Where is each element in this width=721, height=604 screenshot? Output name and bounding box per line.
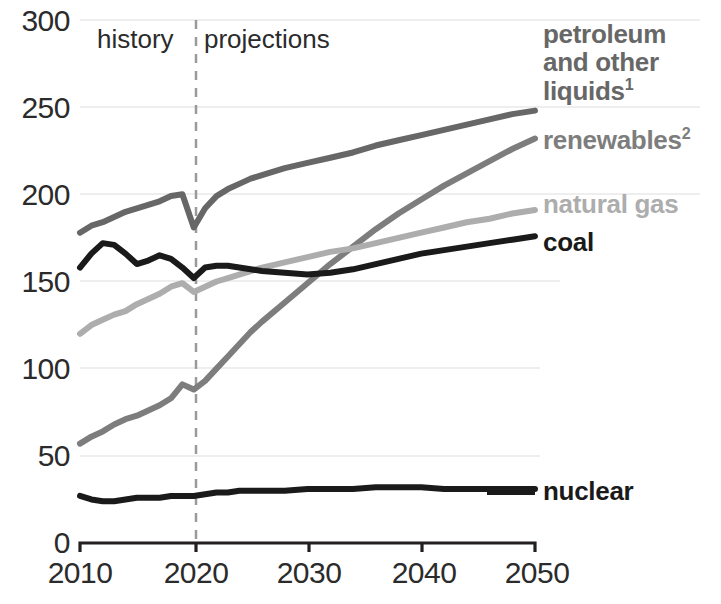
series-label-renewables-footnote: 2 (682, 124, 691, 142)
series-line-renewables (80, 139, 535, 444)
series-label-nuclear: nuclear (543, 477, 633, 505)
series-label-petroleum: petroleum and other liquids1 (543, 20, 666, 105)
x-axis (80, 543, 535, 552)
series-label-coal: coal (543, 228, 594, 256)
series-label-petroleum-footnote: 1 (625, 75, 634, 93)
energy-consumption-chart: 300 250 200 150 100 50 0 2010 2020 2030 … (0, 0, 721, 604)
series-label-natural-gas: natural gas (543, 190, 678, 218)
series-label-petroleum-line2: and other (543, 47, 659, 77)
series-label-petroleum-line1: petroleum (543, 19, 666, 49)
series-label-renewables: renewables2 (543, 125, 690, 154)
series-label-petroleum-line3: liquids (543, 76, 625, 106)
series-label-renewables-text: renewables (543, 125, 682, 155)
series-line-nuclear (80, 487, 535, 501)
series-lines (80, 111, 535, 502)
